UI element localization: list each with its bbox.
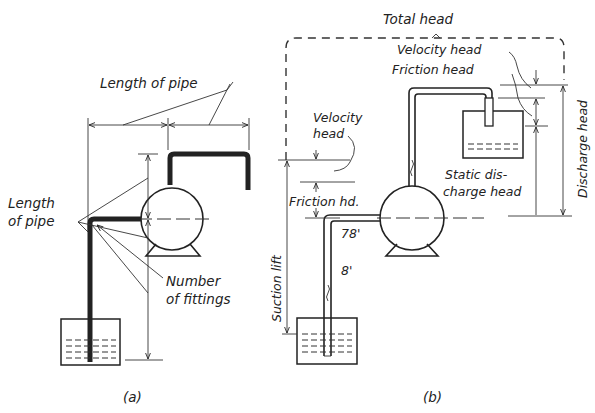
leader-line (509, 52, 531, 88)
label-length-of-pipe-left-1: Length (8, 195, 55, 211)
label-static-discharge-2: charge head (443, 184, 521, 199)
label-length-of-pipe-top: Length of pipe (100, 75, 198, 91)
flow-indicator (327, 285, 330, 301)
label-number-of-fittings-1: Number (166, 273, 222, 289)
label-friction-head-discharge: Friction head (392, 62, 474, 77)
label-suction-lift: Suction lift (269, 254, 284, 322)
label-total-head: Total head (383, 11, 454, 27)
label-78-ft: 78' (341, 226, 360, 241)
label-velocity-head-discharge: Velocity head (397, 42, 482, 57)
label-discharge-head: Discharge head (575, 100, 590, 198)
leader-line (334, 136, 355, 171)
label-length-of-pipe-left-2: of pipe (8, 213, 55, 229)
panel-b: Total head Velocit (269, 11, 590, 405)
leader-line (209, 84, 230, 125)
supply-tank (297, 318, 357, 364)
label-velocity-head-suction-2: head (313, 126, 344, 141)
caption-a: (a) (123, 389, 142, 405)
panel-a: Length of pipe Length of pipe Number of … (8, 75, 249, 405)
suction-pipe-inner (331, 221, 380, 356)
label-static-discharge-1: Static dis- (445, 167, 508, 182)
label-velocity-head-suction-1: Velocity (313, 110, 363, 125)
discharge-pipe (170, 154, 248, 190)
label-number-of-fittings-2: of fittings (166, 291, 231, 307)
discharge-outlet (485, 98, 493, 126)
pump-head-diagram: Length of pipe Length of pipe Number of … (0, 0, 595, 413)
label-8-ft: 8' (341, 263, 352, 278)
caption-b: (b) (423, 389, 442, 405)
suction-pipe (90, 219, 141, 362)
leader-line (512, 74, 532, 116)
label-friction-hd: Friction hd. (289, 194, 359, 209)
flow-indicator (411, 160, 414, 176)
